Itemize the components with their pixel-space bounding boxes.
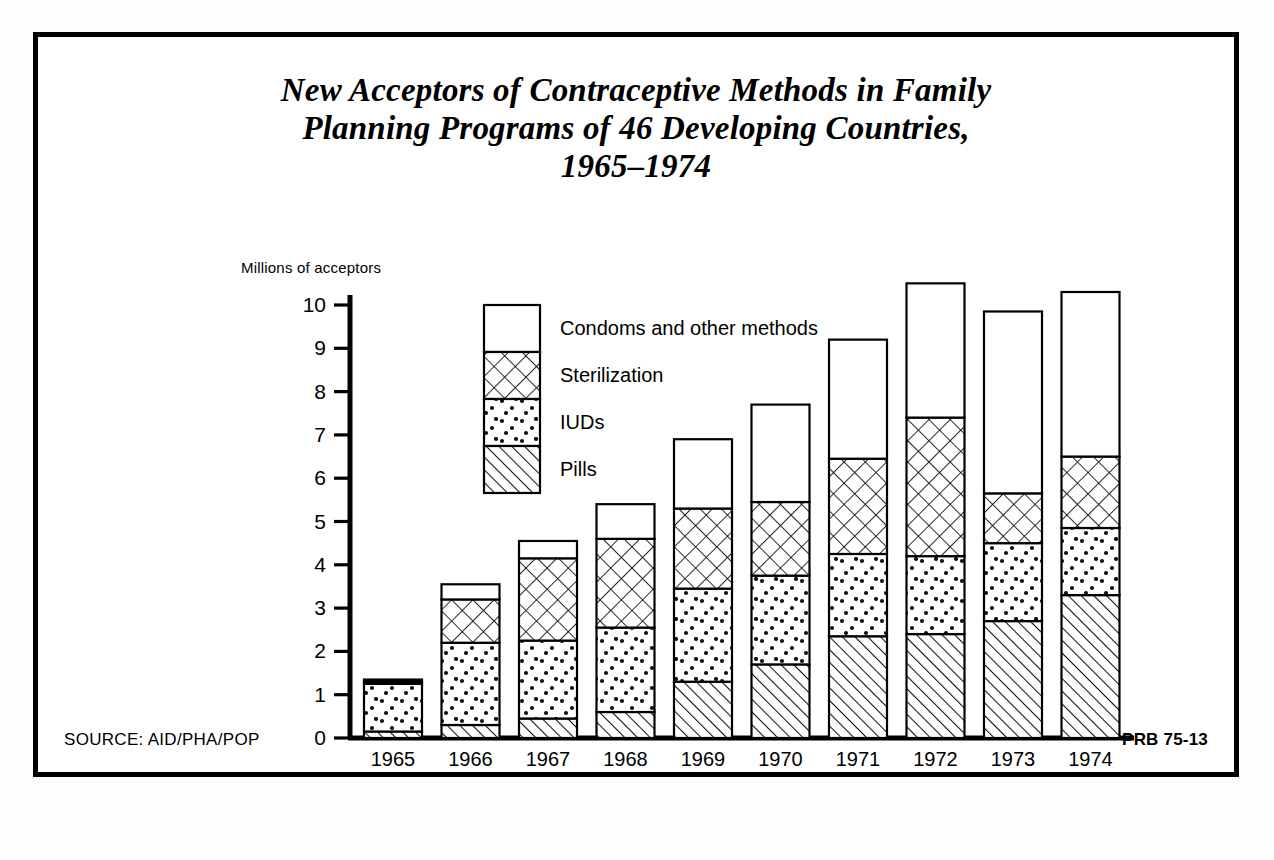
bar-chart-svg: 012345678910 196519661967196819691970197… — [38, 37, 1244, 782]
svg-text:1972: 1972 — [913, 748, 958, 770]
bar-segment — [829, 459, 887, 554]
svg-text:5: 5 — [314, 510, 326, 533]
source-label: SOURCE: AID/PHA/POP — [64, 730, 260, 750]
bar-segment — [674, 439, 732, 508]
bar-segment — [597, 628, 655, 712]
svg-text:9: 9 — [314, 336, 326, 359]
bar-segment — [442, 643, 500, 725]
bar-segment — [1062, 457, 1120, 528]
legend-swatch — [484, 305, 540, 352]
bar-segment — [984, 543, 1042, 621]
bar-segment — [752, 576, 810, 665]
legend-swatch — [484, 352, 540, 399]
bar-segment — [597, 539, 655, 628]
bar-segment — [907, 634, 965, 738]
bar-segment — [907, 556, 965, 634]
bar-segment — [752, 664, 810, 738]
svg-text:8: 8 — [314, 380, 326, 403]
bar-segment — [907, 418, 965, 557]
bar-segment — [1062, 595, 1120, 738]
svg-text:10: 10 — [303, 293, 326, 316]
bar-segment — [984, 493, 1042, 543]
legend-label: Pills — [560, 458, 597, 480]
bar-segment — [1062, 292, 1120, 457]
bar-segment — [984, 621, 1042, 738]
bar-segment — [1062, 528, 1120, 595]
legend-label: Condoms and other methods — [560, 317, 818, 339]
svg-text:1966: 1966 — [448, 748, 493, 770]
bar-segment — [907, 283, 965, 417]
bar-segment — [519, 641, 577, 719]
bar-segment — [752, 502, 810, 576]
bar-group — [364, 283, 1120, 738]
legend-swatch — [484, 399, 540, 446]
svg-text:1965: 1965 — [371, 748, 416, 770]
bar-segment — [829, 636, 887, 738]
bar-segment — [597, 712, 655, 738]
bar-segment — [364, 680, 422, 682]
svg-text:1: 1 — [314, 683, 326, 706]
svg-text:1970: 1970 — [758, 748, 803, 770]
legend-label: Sterilization — [560, 364, 663, 386]
bar-segment — [442, 584, 500, 599]
svg-text:1967: 1967 — [526, 748, 571, 770]
bar-segment — [442, 725, 500, 738]
bar-segment — [674, 509, 732, 589]
bar-segment — [752, 405, 810, 502]
svg-text:3: 3 — [314, 596, 326, 619]
publication-code: PRB 75-13 — [1122, 730, 1208, 750]
svg-text:1968: 1968 — [603, 748, 648, 770]
svg-text:0: 0 — [314, 726, 326, 749]
svg-text:1969: 1969 — [681, 748, 726, 770]
chart-poster: New Acceptors of Contraceptive Methods i… — [33, 32, 1239, 777]
svg-text:1971: 1971 — [836, 748, 881, 770]
svg-text:7: 7 — [314, 423, 326, 446]
svg-text:1974: 1974 — [1068, 748, 1113, 770]
bar-segment — [519, 558, 577, 640]
legend-label: IUDs — [560, 411, 604, 433]
svg-text:6: 6 — [314, 466, 326, 489]
bar-segment — [674, 682, 732, 738]
svg-text:2: 2 — [314, 639, 326, 662]
svg-text:4: 4 — [314, 553, 326, 576]
bar-segment — [442, 599, 500, 642]
bar-segment — [829, 554, 887, 636]
bar-segment — [829, 340, 887, 459]
svg-text:1973: 1973 — [991, 748, 1036, 770]
bar-segment — [597, 504, 655, 539]
bar-segment — [519, 541, 577, 558]
bar-segment — [674, 589, 732, 682]
bar-segment — [519, 719, 577, 738]
legend-swatch — [484, 446, 540, 493]
x-axis-labels: 1965196619671968196919701971197219731974 — [371, 748, 1113, 770]
y-axis-ticks: 012345678910 — [303, 293, 350, 749]
bar-segment — [364, 684, 422, 732]
bar-segment — [984, 311, 1042, 493]
